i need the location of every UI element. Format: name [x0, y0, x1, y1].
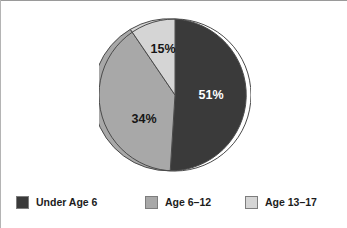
- pie-chart-figure: 51% 34% 15% Under Age 6 Age 6–12 Age 13–…: [0, 0, 347, 228]
- pie-svg: 51% 34% 15%: [99, 11, 251, 180]
- legend-label-age-6-12: Age 6–12: [165, 196, 211, 208]
- legend-label-under-age-6: Under Age 6: [36, 196, 97, 208]
- legend-label-age-13-17: Age 13–17: [265, 196, 317, 208]
- pie-label-age-13-17: 15%: [150, 42, 175, 56]
- figure-top-rule: [0, 0, 347, 1]
- legend-swatch-age-6-12: [145, 196, 158, 209]
- legend: Under Age 6 Age 6–12 Age 13–17: [0, 188, 347, 216]
- legend-item-age-13-17: Age 13–17: [245, 188, 317, 216]
- legend-swatch-under-age-6: [16, 196, 29, 209]
- legend-swatch-age-13-17: [245, 196, 258, 209]
- pie-chart: 51% 34% 15%: [99, 11, 251, 180]
- pie-label-age-6-12: 34%: [131, 112, 156, 126]
- legend-item-age-6-12: Age 6–12: [145, 188, 211, 216]
- legend-item-under-age-6: Under Age 6: [16, 188, 97, 216]
- pie-label-under-age-6: 51%: [198, 88, 223, 102]
